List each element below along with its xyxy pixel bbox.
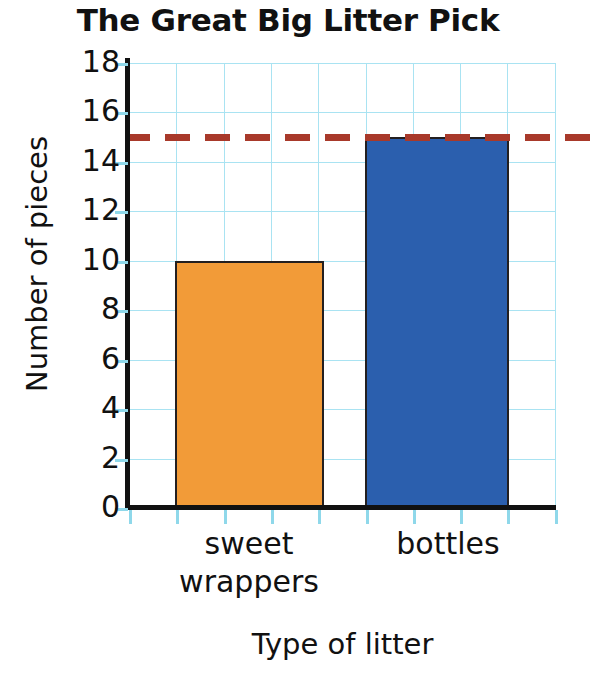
y-tick-labels: 024681012141618	[46, 0, 120, 676]
x-axis-tick	[176, 510, 179, 524]
x-axis-line	[125, 505, 556, 510]
x-category-label-line: bottles	[340, 525, 556, 563]
x-axis-tick	[460, 510, 463, 524]
x-axis-title: Type of litter	[129, 627, 556, 661]
y-tick-label: 16	[56, 96, 120, 126]
reference-line-dash	[565, 134, 590, 141]
x-axis-tick	[413, 510, 416, 524]
gridline-vertical	[555, 63, 556, 508]
gridline-horizontal	[129, 112, 556, 113]
reference-line-dash	[405, 134, 430, 141]
reference-line-dash	[485, 134, 510, 141]
y-tick-label: 4	[56, 393, 120, 423]
y-tick-label: 10	[56, 245, 120, 275]
reference-line-dash	[325, 134, 350, 141]
x-axis-tick	[224, 510, 227, 524]
x-axis-tick	[318, 510, 321, 524]
y-tick-label: 14	[56, 146, 120, 176]
bar-sweet-wrappers	[175, 261, 324, 508]
x-axis-tick	[129, 510, 132, 524]
reference-line-dash	[205, 134, 230, 141]
plot-area	[129, 63, 556, 508]
reference-line-dash	[525, 134, 550, 141]
y-tick-label: 0	[56, 492, 120, 522]
y-tick-label: 8	[56, 294, 120, 324]
x-category-label: sweetwrappers	[129, 525, 369, 601]
reference-line-dash	[285, 134, 310, 141]
y-tick-label: 18	[56, 47, 120, 77]
y-tick-label: 2	[56, 443, 120, 473]
gridline-horizontal	[129, 63, 556, 64]
bar-bottles	[365, 137, 509, 508]
x-axis-tick	[366, 510, 369, 524]
y-tick-label: 6	[56, 344, 120, 374]
x-category-label-line: sweet	[129, 525, 369, 563]
x-axis-tick	[271, 510, 274, 524]
x-axis-tick	[555, 510, 558, 524]
y-axis-title: Number of pieces	[20, 64, 54, 464]
x-category-label-line: wrappers	[129, 563, 369, 601]
reference-line-dash	[165, 134, 190, 141]
x-category-label: bottles	[340, 525, 556, 563]
reference-line-dash	[245, 134, 270, 141]
reference-line-dash	[365, 134, 390, 141]
x-axis-tick	[507, 510, 510, 524]
reference-line-dash	[445, 134, 470, 141]
y-axis-line	[125, 58, 130, 510]
y-tick-label: 12	[56, 195, 120, 225]
